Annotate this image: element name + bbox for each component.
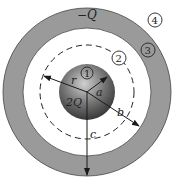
label-b: b (117, 106, 124, 119)
label-r: r (71, 74, 77, 87)
svg-text:2: 2 (116, 53, 122, 64)
region-4-marker: 4 (148, 13, 162, 27)
label-sphere-charge: 2Q (65, 96, 82, 109)
svg-text:4: 4 (152, 15, 158, 26)
svg-text:3: 3 (145, 45, 151, 56)
svg-text:1: 1 (84, 68, 90, 79)
label-c: c (90, 128, 96, 141)
concentric-sphere-diagram: −Q 2Q r a b c 1 2 3 4 (0, 0, 172, 181)
region-3-marker: 3 (141, 43, 155, 57)
label-shell-charge: −Q (77, 8, 97, 22)
label-a: a (96, 86, 103, 99)
region-2-marker: 2 (112, 51, 126, 65)
